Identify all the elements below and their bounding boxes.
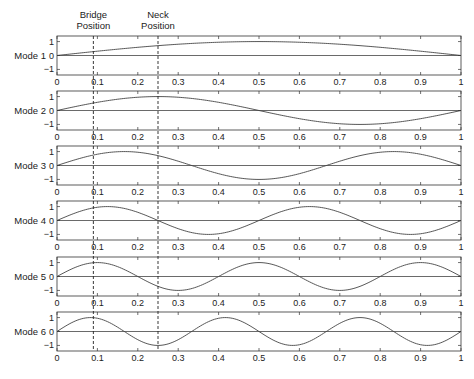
x-tick-label: 0.5 [253,132,266,142]
x-tick-label: 0.3 [172,187,185,197]
mode-label: Mode 4 [14,215,46,226]
x-tick-label: 0.4 [212,298,225,308]
x-tick-label: 0.8 [374,353,387,363]
y-tick-label: 1 [49,147,54,157]
x-tick-label: 0 [54,77,59,87]
x-tick-label: 0.7 [334,242,347,252]
mode-label: Mode 5 [14,271,46,282]
annotation-label: Position [76,20,110,31]
y-tick-label: −1 [44,285,54,295]
y-tick-label: 1 [49,202,54,212]
x-tick-label: 0.6 [293,77,306,87]
x-tick-label: 0.5 [253,298,266,308]
y-tick-label: 0 [49,161,54,171]
y-tick-label: −1 [44,174,54,184]
x-tick-label: 1 [458,77,463,87]
x-tick-label: 0.2 [132,298,145,308]
y-tick-label: −1 [44,119,54,129]
x-tick-label: 0.6 [293,132,306,142]
x-tick-label: 0.2 [132,187,145,197]
x-tick-label: 0.8 [374,77,387,87]
string-modes-chart: 00.10.20.30.40.50.60.70.80.9110−1Mode 10… [0,0,474,379]
y-tick-label: 0 [49,106,54,116]
x-tick-label: 0 [54,353,59,363]
x-tick-label: 0.5 [253,187,266,197]
y-tick-label: 1 [49,313,54,323]
mode-label: Mode 2 [14,105,46,116]
x-tick-label: 0.5 [253,77,266,87]
x-tick-label: 0.3 [172,132,185,142]
x-tick-label: 0.6 [293,187,306,197]
x-tick-label: 0.7 [334,77,347,87]
x-tick-label: 0.8 [374,242,387,252]
x-tick-label: 0.1 [91,353,104,363]
x-tick-label: 0.7 [334,298,347,308]
x-tick-label: 0.2 [132,353,145,363]
x-tick-label: 0.8 [374,187,387,197]
x-tick-label: 0.5 [253,242,266,252]
x-tick-label: 0 [54,132,59,142]
x-tick-label: 0 [54,187,59,197]
mode-curve [57,42,461,56]
y-tick-label: 1 [49,37,54,47]
annotation-label: Neck [147,9,169,20]
y-tick-label: 0 [49,272,54,282]
x-tick-label: 0.9 [414,298,427,308]
x-tick-label: 0.4 [212,132,225,142]
x-tick-label: 0.7 [334,132,347,142]
x-tick-label: 0.8 [374,298,387,308]
y-tick-label: 1 [49,258,54,268]
x-tick-label: 0.8 [374,132,387,142]
x-tick-label: 0.4 [212,77,225,87]
x-tick-label: 0.9 [414,187,427,197]
x-tick-label: 0.6 [293,353,306,363]
x-tick-label: 0 [54,242,59,252]
mode-label: Mode 1 [14,50,46,61]
x-tick-label: 0.3 [172,77,185,87]
mode-label: Mode 3 [14,160,46,171]
x-tick-label: 0.9 [414,353,427,363]
y-tick-label: 0 [49,327,54,337]
x-tick-label: 0.4 [212,353,225,363]
x-tick-label: 0.5 [253,353,266,363]
x-tick-label: 0.7 [334,353,347,363]
x-tick-label: 1 [458,298,463,308]
y-tick-label: −1 [44,229,54,239]
x-tick-label: 0.9 [414,242,427,252]
y-tick-label: −1 [44,340,54,350]
x-tick-label: 0.6 [293,242,306,252]
x-tick-label: 0.3 [172,242,185,252]
mode-label: Mode 6 [14,326,46,337]
x-tick-label: 1 [458,242,463,252]
x-tick-label: 0.4 [212,242,225,252]
x-tick-label: 0 [54,298,59,308]
x-tick-label: 1 [458,132,463,142]
x-tick-label: 0.3 [172,298,185,308]
x-tick-label: 0.3 [172,353,185,363]
x-tick-label: 0.9 [414,132,427,142]
y-tick-label: 0 [49,51,54,61]
x-tick-label: 1 [458,187,463,197]
x-tick-label: 0.2 [132,242,145,252]
y-tick-label: −1 [44,64,54,74]
x-tick-label: 0.6 [293,298,306,308]
x-tick-label: 0.7 [334,187,347,197]
y-tick-label: 0 [49,216,54,226]
x-tick-label: 0.9 [414,77,427,87]
x-tick-label: 0.2 [132,77,145,87]
x-tick-label: 0.4 [212,187,225,197]
x-tick-label: 0.2 [132,132,145,142]
annotation-label: Position [141,20,175,31]
y-tick-label: 1 [49,92,54,102]
annotation-label: Bridge [80,9,107,20]
x-tick-label: 1 [458,353,463,363]
